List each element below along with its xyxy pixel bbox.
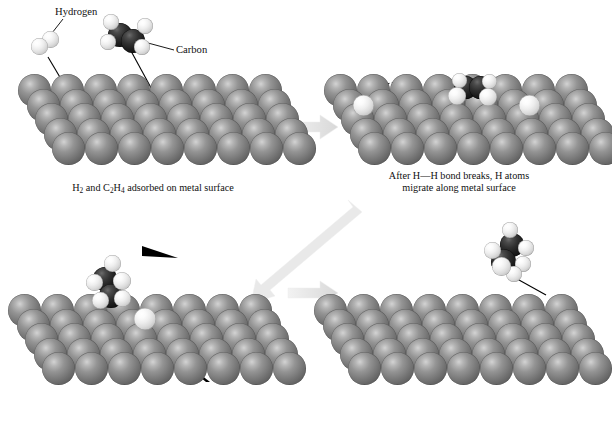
metal-atom	[490, 132, 523, 165]
hydrogen-atom	[86, 274, 103, 291]
metal-atom	[447, 352, 480, 385]
metal-atom	[546, 352, 579, 385]
metal-atom	[513, 352, 546, 385]
hydrogen-atom	[103, 14, 119, 30]
metal-atom	[556, 132, 589, 165]
metal-atom	[184, 132, 217, 165]
metal-atom	[217, 132, 250, 165]
metal-atom	[250, 132, 283, 165]
metal-atom	[75, 352, 108, 385]
metal-atom	[579, 352, 612, 385]
metal-atom	[523, 132, 556, 165]
hydrogen-atom	[492, 257, 511, 276]
metal-atom	[151, 132, 184, 165]
free-hydrogen-atom	[353, 95, 374, 116]
metal-atom	[42, 352, 75, 385]
metal-atom	[480, 352, 513, 385]
metal-atom	[85, 132, 118, 165]
metal-atom	[207, 352, 240, 385]
metal-atom	[52, 132, 85, 165]
metal-atom	[348, 352, 381, 385]
metal-atom	[414, 352, 447, 385]
hydrogen-atom	[113, 272, 131, 290]
hydrogen-atom	[482, 74, 497, 89]
flow-arrow-2-to-3	[251, 200, 362, 303]
hydrogen-atom	[137, 18, 153, 34]
metal-atom	[174, 352, 207, 385]
hydrogen-atom	[114, 290, 131, 307]
metal-atom	[118, 132, 151, 165]
free-hydrogen-atom	[134, 308, 156, 330]
hydrogen-atom	[518, 240, 534, 256]
metal-atom	[273, 352, 306, 385]
hydrogen-atom	[448, 87, 466, 105]
hydrogen-atom	[502, 222, 518, 238]
metal-atom	[391, 132, 424, 165]
hydrogen-atom	[100, 34, 116, 50]
metal-atom	[240, 352, 273, 385]
hydrogen-atom	[92, 292, 109, 309]
metal-atom	[358, 132, 391, 165]
reaction-mechanism-figure: Hydrogen Carbon H2 and C2H4 adsorbed on …	[0, 0, 612, 435]
hydrogen-atom	[452, 73, 467, 88]
metal-atom	[424, 132, 457, 165]
hydrogen-atom	[104, 255, 121, 272]
callout-c2h5-leader	[142, 246, 178, 258]
hydrogen-atom	[479, 88, 497, 106]
free-hydrogen-atom	[519, 95, 540, 116]
metal-atom	[108, 352, 141, 385]
metal-atom	[381, 352, 414, 385]
hydrogen-atom	[31, 38, 48, 55]
metal-atom	[457, 132, 490, 165]
metal-atom	[283, 132, 316, 165]
hydrogen-atom	[134, 39, 150, 55]
metal-atom	[141, 352, 174, 385]
